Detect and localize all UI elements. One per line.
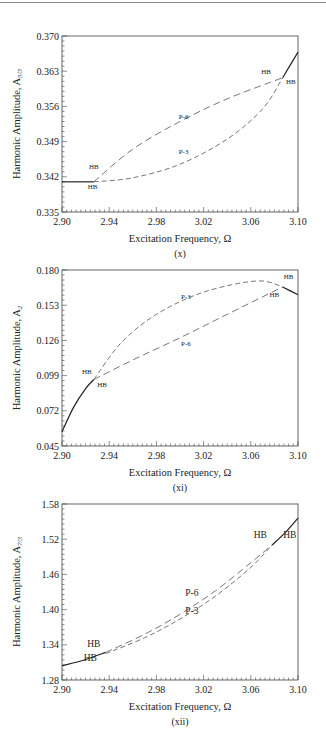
y-tick-label: 0.153: [37, 300, 60, 311]
x-axis-title: Excitation Frequency, Ω: [129, 467, 232, 478]
x-tick-label: 3.06: [242, 216, 260, 227]
x-tick-label: 2.90: [53, 684, 71, 695]
annotation-label: HB: [254, 530, 267, 540]
y-tick-label: 0.072: [37, 405, 60, 416]
y-tick-label: 0.180: [37, 265, 60, 276]
x-axis-title: Excitation Frequency, Ω: [129, 701, 232, 712]
y-tick-label: 1.58: [42, 499, 60, 510]
x-tick-label: 2.98: [148, 684, 166, 695]
y-axis-title: Harmonic Amplitude, A5/3: [11, 68, 24, 179]
annotation-label: HB: [89, 163, 99, 171]
y-tick-label: 0.045: [37, 441, 60, 452]
y-tick-label: 1.34: [42, 639, 60, 650]
y-axis-title: Harmonic Amplitude, A7/3: [11, 536, 24, 647]
annotation-label: HB: [261, 68, 271, 76]
x-tick-label: 2.90: [53, 450, 71, 461]
figure-panels: 2.902.942.983.023.063.100.3350.3420.3490…: [0, 0, 326, 750]
x-tick-label: 2.98: [148, 216, 166, 227]
annotation-label: HB: [270, 291, 280, 299]
series-stable-solid-left-: [62, 380, 94, 432]
y-tick-label: 1.40: [42, 604, 60, 615]
annotation-label: HB: [284, 273, 294, 281]
series-p-6: [94, 78, 283, 182]
y-tick-label: 1.52: [42, 534, 60, 545]
x-tick-label: 3.10: [289, 216, 307, 227]
x-tick-label: 3.02: [195, 684, 213, 695]
chart-panel-3: 2.902.942.983.023.063.101.281.341.401.46…: [11, 499, 307, 729]
series-p-6: [106, 545, 272, 652]
series-stable-solid-right-: [283, 52, 298, 78]
y-tick-label: 0.126: [37, 335, 60, 346]
x-tick-label: 3.06: [242, 450, 260, 461]
x-tick-label: 2.94: [100, 684, 118, 695]
x-tick-label: 3.02: [195, 450, 213, 461]
series-p-3: [106, 545, 272, 654]
y-tick-label: 0.342: [37, 171, 60, 182]
x-tick-label: 2.94: [100, 450, 118, 461]
annotation-label: P-3: [179, 148, 189, 156]
x-tick-label: 2.98: [148, 450, 166, 461]
y-tick-label: 0.363: [37, 66, 60, 77]
x-tick-label: 3.06: [242, 684, 260, 695]
annotation-label: P-3: [185, 606, 198, 616]
y-tick-label: 0.335: [37, 207, 60, 218]
y-tick-label: 1.46: [42, 569, 60, 580]
panel-caption: (xii): [171, 716, 188, 728]
annotation-label: HB: [88, 183, 98, 191]
chart-panel-2: 2.902.942.983.023.063.100.0450.0720.0990…: [11, 265, 307, 495]
x-tick-label: 3.10: [289, 684, 307, 695]
annotation-label: P-3: [181, 293, 191, 301]
x-tick-label: 3.02: [195, 216, 213, 227]
x-tick-label: 3.10: [289, 450, 307, 461]
annotation-label: P-6: [185, 588, 198, 598]
panel-caption: (x): [174, 248, 186, 260]
series-stable-solid-right-: [283, 287, 298, 295]
y-axis-title: Harmonic Amplitude, A2: [11, 305, 24, 410]
annotation-label: P-6: [181, 340, 191, 348]
y-tick-label: 1.28: [42, 675, 60, 686]
x-axis-title: Excitation Frequency, Ω: [129, 233, 232, 244]
annotation-label: HB: [84, 653, 97, 663]
y-tick-label: 0.370: [37, 31, 60, 42]
y-tick-label: 0.099: [37, 370, 60, 381]
annotation-label: HB: [97, 381, 107, 389]
annotation-label: HB: [82, 368, 92, 376]
annotation-label: HB: [283, 530, 296, 540]
y-tick-label: 0.349: [37, 136, 60, 147]
annotation-label: HB: [87, 639, 100, 649]
series-p-3: [94, 78, 283, 182]
x-tick-label: 2.94: [100, 216, 118, 227]
panel-caption: (xi): [173, 482, 187, 494]
annotation-label: HB: [286, 78, 296, 86]
series-p-6: [94, 287, 283, 380]
chart-panel-1: 2.902.942.983.023.063.100.3350.3420.3490…: [11, 31, 307, 261]
y-tick-label: 0.356: [37, 101, 60, 112]
x-tick-label: 2.90: [53, 216, 71, 227]
annotation-label: P-6: [179, 113, 189, 121]
